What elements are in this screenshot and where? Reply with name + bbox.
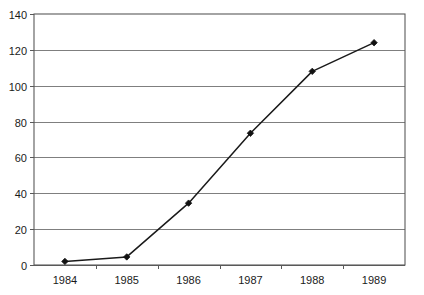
- x-tick-label-1985: 1985: [115, 274, 139, 286]
- y-tick-label-60: 60: [15, 152, 27, 164]
- x-tick-label-1987: 1987: [238, 274, 262, 286]
- y-tick-label-80: 80: [15, 117, 27, 129]
- y-tick-label-0: 0: [21, 260, 27, 272]
- plot-area-background: [34, 14, 405, 265]
- y-axis-tick-labels: 020406080100120140: [9, 9, 27, 272]
- y-tick-label-100: 100: [9, 81, 27, 93]
- x-axis-tick-labels: 198419851986198719881989: [53, 274, 387, 286]
- x-tick-label-1989: 1989: [362, 274, 386, 286]
- chart-canvas: 020406080100120140 198419851986198719881…: [0, 0, 424, 295]
- x-tick-label-1984: 1984: [53, 274, 77, 286]
- y-axis-ticks: [30, 15, 34, 266]
- line-chart: 020406080100120140 198419851986198719881…: [0, 0, 424, 295]
- x-tick-label-1986: 1986: [176, 274, 200, 286]
- y-tick-label-20: 20: [15, 224, 27, 236]
- x-tick-label-1988: 1988: [300, 274, 324, 286]
- y-tick-label-120: 120: [9, 45, 27, 57]
- y-tick-label-140: 140: [9, 9, 27, 21]
- y-tick-label-40: 40: [15, 188, 27, 200]
